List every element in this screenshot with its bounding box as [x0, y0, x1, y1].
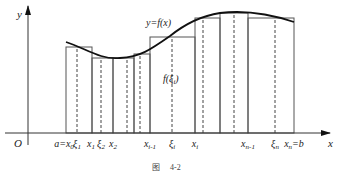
x-axis-label: x [327, 137, 333, 149]
partition-label: x2 [108, 138, 117, 151]
curve-f-of-x [66, 12, 294, 58]
partition-label: ξ2 [97, 138, 105, 151]
riemann-rectangle [134, 54, 150, 133]
partition-label: xi-1 [143, 138, 156, 151]
riemann-rectangles [66, 13, 294, 133]
riemann-rectangle [248, 18, 294, 133]
riemann-rectangle [113, 58, 134, 133]
riemann-rectangle [92, 58, 113, 133]
figure-caption: 图4-2 [152, 163, 181, 172]
curve-label: y=f(x) [145, 17, 172, 29]
riemann-sum-diagram: y x O y=f(x) f(ξi) a=x0ξ1x1ξ2x2xi-1ξixix… [0, 0, 343, 175]
riemann-rectangle [66, 47, 92, 133]
partition-label: ξi [169, 138, 175, 151]
partition-label: a=x0 [54, 138, 74, 151]
partition-label: ξ1 [73, 138, 81, 151]
partition-label: xn=b [283, 138, 304, 151]
origin-label: O [14, 137, 22, 149]
partition-label: xn-1 [240, 138, 255, 151]
height-label: f(ξi) [163, 73, 179, 86]
y-axis-label: y [16, 8, 22, 20]
partition-label: xi [191, 138, 198, 151]
partition-label: ξn [271, 138, 279, 151]
partition-labels: a=x0ξ1x1ξ2x2xi-1ξixixn-1ξnxn=b [54, 138, 304, 151]
riemann-rectangle [195, 18, 220, 133]
partition-label: x1 [86, 138, 95, 151]
